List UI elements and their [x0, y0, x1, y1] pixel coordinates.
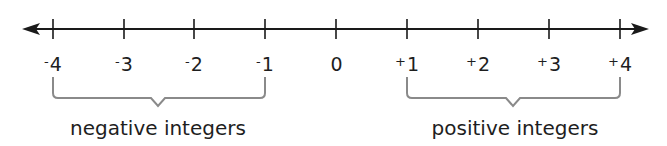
tick-label-neg-4: -4	[33, 50, 73, 76]
tick-label-neg-2: -2	[174, 50, 214, 76]
tick-label-pos-4: +4	[600, 50, 640, 76]
number-line-diagram: -4 -3 -2 -1 0 +1 +2 +3 +4 negative integ…	[0, 0, 667, 146]
positive-integers-bracket	[407, 77, 620, 106]
tick-label-pos-2: +2	[458, 50, 498, 76]
tick-label-zero: 0	[316, 50, 356, 76]
negative-integers-label: negative integers	[68, 115, 248, 141]
positive-integers-label: positive integers	[425, 115, 605, 141]
tick-label-pos-1: +1	[387, 50, 427, 76]
negative-integers-bracket	[53, 77, 265, 106]
tick-label-neg-1: -1	[245, 50, 285, 76]
tick-label-neg-3: -3	[104, 50, 144, 76]
tick-label-pos-3: +3	[529, 50, 569, 76]
